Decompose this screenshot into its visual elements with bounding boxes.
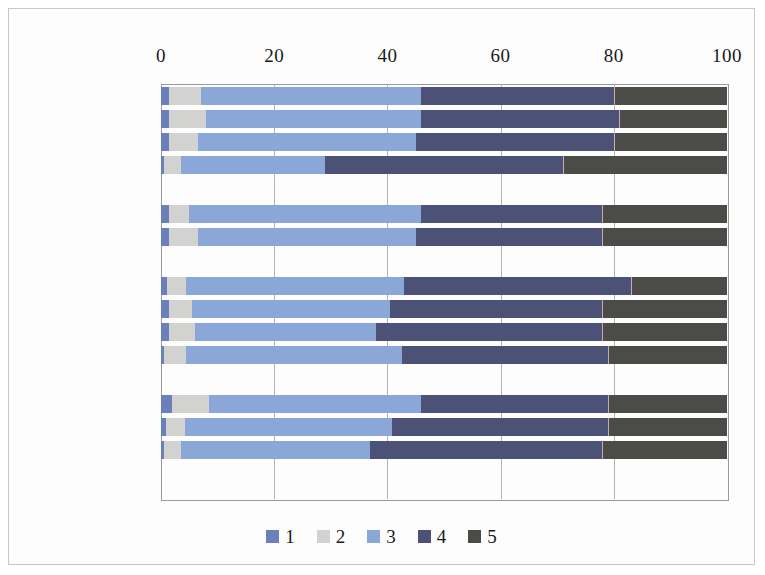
bar-segment-4[interactable]	[390, 300, 602, 318]
legend-item[interactable]: 5	[468, 527, 497, 546]
bar-segment-4[interactable]	[392, 418, 608, 436]
bar-segment-5[interactable]	[608, 395, 727, 413]
legend-swatch-icon	[418, 530, 431, 543]
bar-segment-1[interactable]	[161, 110, 169, 128]
chart-frame: 12345 02040608010018—29岁30—39岁40—54岁55—6…	[8, 8, 755, 565]
bar-row[interactable]	[161, 441, 727, 459]
bar-row[interactable]	[161, 346, 727, 364]
legend-label: 1	[285, 527, 295, 546]
legend-swatch-icon	[266, 530, 279, 543]
legend-item[interactable]: 4	[418, 527, 447, 546]
chart-legend: 12345	[9, 527, 754, 546]
bar-segment-5[interactable]	[614, 87, 727, 105]
bar-segment-4[interactable]	[325, 156, 563, 174]
bar-segment-3[interactable]	[209, 395, 421, 413]
bar-segment-5[interactable]	[602, 323, 727, 341]
legend-item[interactable]: 2	[317, 527, 346, 546]
x-tick-label: 80	[604, 45, 624, 67]
legend-item[interactable]: 3	[367, 527, 396, 546]
bar-segment-3[interactable]	[181, 156, 325, 174]
bar-segment-3[interactable]	[181, 441, 371, 459]
bar-segment-5[interactable]	[608, 346, 727, 364]
x-tick-label: 0	[156, 45, 166, 67]
bar-segment-4[interactable]	[416, 133, 614, 151]
bar-segment-1[interactable]	[161, 87, 169, 105]
bar-segment-2[interactable]	[164, 441, 181, 459]
plot-area	[161, 84, 727, 499]
bar-segment-4[interactable]	[421, 205, 602, 223]
legend-swatch-icon	[367, 530, 380, 543]
bar-segment-1[interactable]	[161, 133, 169, 151]
bar-segment-5[interactable]	[614, 133, 727, 151]
legend-label: 3	[386, 527, 396, 546]
bar-segment-4[interactable]	[421, 395, 608, 413]
bar-segment-5[interactable]	[619, 110, 727, 128]
bar-segment-2[interactable]	[164, 156, 181, 174]
legend-swatch-icon	[317, 530, 330, 543]
bar-segment-2[interactable]	[167, 277, 187, 295]
legend-label: 2	[336, 527, 346, 546]
bar-segment-2[interactable]	[166, 418, 186, 436]
bar-segment-3[interactable]	[198, 133, 416, 151]
bar-row[interactable]	[161, 300, 727, 318]
bar-row[interactable]	[161, 205, 727, 223]
legend-label: 4	[437, 527, 447, 546]
bar-segment-1[interactable]	[161, 300, 169, 318]
bar-segment-5[interactable]	[563, 156, 727, 174]
bar-row[interactable]	[161, 418, 727, 436]
bar-row[interactable]	[161, 156, 727, 174]
bar-segment-3[interactable]	[195, 323, 376, 341]
bar-segment-2[interactable]	[169, 323, 194, 341]
bar-segment-3[interactable]	[189, 205, 421, 223]
x-tick-label: 60	[491, 45, 511, 67]
bar-segment-3[interactable]	[192, 300, 390, 318]
bar-row[interactable]	[161, 133, 727, 151]
bar-row[interactable]	[161, 228, 727, 246]
x-tick-label: 20	[264, 45, 284, 67]
x-tick-label: 100	[712, 45, 742, 67]
x-tick-label: 40	[377, 45, 397, 67]
bar-segment-3[interactable]	[186, 346, 401, 364]
bar-segment-5[interactable]	[631, 277, 727, 295]
bar-segment-2[interactable]	[172, 395, 209, 413]
bar-segment-3[interactable]	[206, 110, 421, 128]
bar-segment-5[interactable]	[602, 228, 727, 246]
bar-segment-5[interactable]	[602, 300, 727, 318]
bar-segment-4[interactable]	[421, 87, 613, 105]
bar-segment-2[interactable]	[169, 110, 206, 128]
bar-segment-1[interactable]	[161, 323, 169, 341]
bar-segment-5[interactable]	[602, 205, 727, 223]
bar-segment-3[interactable]	[186, 277, 404, 295]
bar-segment-4[interactable]	[416, 228, 603, 246]
bar-row[interactable]	[161, 277, 727, 295]
bar-segment-2[interactable]	[169, 87, 200, 105]
legend-label: 5	[487, 527, 497, 546]
bar-segment-1[interactable]	[161, 395, 172, 413]
bar-segment-4[interactable]	[376, 323, 602, 341]
bar-segment-4[interactable]	[370, 441, 602, 459]
bar-row[interactable]	[161, 395, 727, 413]
bar-segment-5[interactable]	[602, 441, 727, 459]
bar-segment-3[interactable]	[198, 228, 416, 246]
bar-row[interactable]	[161, 110, 727, 128]
bar-segment-2[interactable]	[164, 346, 187, 364]
bar-row[interactable]	[161, 323, 727, 341]
bar-segment-2[interactable]	[169, 133, 197, 151]
legend-swatch-icon	[468, 530, 481, 543]
bar-segment-2[interactable]	[169, 228, 197, 246]
bar-segment-4[interactable]	[402, 346, 609, 364]
bar-segment-5[interactable]	[608, 418, 727, 436]
bar-segment-3[interactable]	[185, 418, 392, 436]
bar-segment-2[interactable]	[169, 300, 192, 318]
bar-segment-4[interactable]	[421, 110, 619, 128]
legend-item[interactable]: 1	[266, 527, 295, 546]
bar-segment-4[interactable]	[404, 277, 630, 295]
bar-segment-1[interactable]	[161, 205, 169, 223]
bar-segment-2[interactable]	[169, 205, 189, 223]
bar-segment-3[interactable]	[201, 87, 422, 105]
bar-row[interactable]	[161, 87, 727, 105]
bar-segment-1[interactable]	[161, 228, 169, 246]
